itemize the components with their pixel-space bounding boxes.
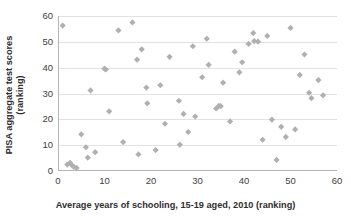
y-tick-label-0: 0	[31, 166, 53, 176]
data-point	[92, 149, 98, 155]
y-axis-title: PISA aggregate test scores (ranking)	[2, 10, 28, 180]
x-tick-label-40: 40	[232, 176, 256, 186]
data-point	[106, 108, 112, 114]
x-tick-label-30: 30	[186, 176, 210, 186]
plot-area	[58, 16, 337, 171]
data-point	[199, 74, 205, 80]
data-point	[220, 80, 226, 86]
data-point	[143, 84, 149, 90]
data-point	[135, 151, 141, 157]
data-point	[167, 54, 173, 60]
data-point	[87, 87, 93, 93]
data-point	[162, 121, 168, 127]
data-point	[129, 19, 135, 25]
data-point	[115, 27, 121, 33]
data-point	[287, 25, 293, 31]
data-point	[246, 41, 252, 47]
data-point	[255, 38, 261, 44]
data-point	[144, 100, 150, 106]
y-axis-title-line-2: (ranking)	[15, 75, 26, 114]
data-point	[185, 129, 191, 135]
data-point	[250, 30, 256, 36]
data-point	[139, 46, 145, 52]
y-tick-label-50: 50	[31, 37, 53, 47]
x-tick-label-10: 10	[93, 176, 117, 186]
data-point	[308, 95, 314, 101]
data-point	[239, 59, 245, 65]
data-point	[190, 43, 196, 49]
y-tick-label-20: 20	[31, 114, 53, 124]
x-axis-title: Average years of schooling, 15-19 aged, …	[0, 200, 351, 210]
data-point	[192, 113, 198, 119]
data-point	[157, 82, 163, 88]
data-point	[176, 98, 182, 104]
y-tick-label-30: 30	[31, 89, 53, 99]
data-point	[85, 154, 91, 160]
data-point	[120, 139, 126, 145]
y-axis-title-line-1: PISA aggregate test scores	[4, 36, 15, 155]
data-point	[297, 72, 303, 78]
data-point	[315, 77, 321, 83]
data-point	[283, 134, 289, 140]
plot-svg	[58, 16, 337, 171]
data-point	[232, 49, 238, 55]
x-tick-label-60: 60	[325, 176, 349, 186]
data-point	[320, 92, 326, 98]
y-tick-label-60: 60	[31, 11, 53, 21]
data-point	[78, 131, 84, 137]
gridlines	[58, 17, 337, 146]
data-point	[180, 111, 186, 117]
data-point	[301, 51, 307, 57]
data-point	[153, 147, 159, 153]
axis-tick-marks	[58, 17, 337, 172]
data-point	[134, 57, 140, 63]
data-point	[236, 69, 242, 75]
data-point	[278, 124, 284, 130]
data-point	[204, 36, 210, 42]
data-point	[264, 33, 270, 39]
data-point	[206, 62, 212, 68]
data-point	[292, 126, 298, 132]
x-tick-label-0: 0	[46, 176, 70, 186]
x-tick-label-50: 50	[279, 176, 303, 186]
data-point	[273, 157, 279, 163]
data-point	[60, 22, 66, 28]
axis-lines	[58, 16, 337, 171]
data-point	[269, 116, 275, 122]
y-tick-label-40: 40	[31, 63, 53, 73]
data-point	[177, 142, 183, 148]
scatter-chart: PISA aggregate test scores (ranking) 010…	[0, 0, 351, 220]
data-point	[260, 137, 266, 143]
y-tick-label-10: 10	[31, 140, 53, 150]
x-tick-label-20: 20	[139, 176, 163, 186]
